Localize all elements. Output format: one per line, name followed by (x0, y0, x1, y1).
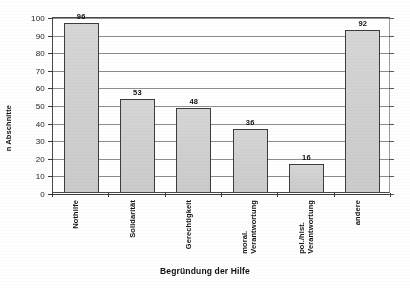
bar-value-label: 16 (289, 153, 324, 162)
bar-column: 36 (233, 16, 268, 192)
bar-value-label: 92 (345, 19, 380, 28)
y-tick-label: 40 (36, 119, 45, 128)
bar (64, 23, 99, 192)
bar (176, 108, 211, 192)
x-tick-mark (334, 193, 335, 197)
y-tick-label: 0 (40, 190, 45, 199)
x-category-label: Solidarität (129, 200, 145, 238)
y-tick-mark-right (389, 18, 394, 19)
bar-value-label: 48 (176, 97, 211, 106)
y-tick-label: 30 (36, 137, 45, 146)
y-tick-mark-right (389, 159, 394, 160)
bar-chart-figure: n Abschnitte 0102030405060708090100 9653… (0, 0, 410, 288)
y-tick-mark-right (389, 124, 394, 125)
x-tick-mark (221, 193, 222, 197)
y-tick-label: 70 (36, 66, 45, 75)
x-category-label: Nothilfe (72, 200, 88, 229)
x-category-label: moral. Verantwortung (241, 200, 257, 254)
x-category-label: andere (354, 200, 370, 225)
bar-column: 92 (345, 16, 380, 192)
y-tick-mark-right (389, 53, 394, 54)
y-axis-title: n Abschnitte (4, 105, 13, 151)
x-tick-mark (277, 193, 278, 197)
x-tick-mark (52, 193, 53, 197)
x-tick-mark (390, 193, 391, 197)
y-tick-label: 50 (36, 102, 45, 111)
y-tick-label: 90 (36, 31, 45, 40)
y-tick-label: 20 (36, 154, 45, 163)
bar (120, 99, 155, 192)
bar-column: 16 (289, 16, 324, 192)
bar-column: 48 (176, 16, 211, 192)
bar-value-label: 36 (233, 118, 268, 127)
plot-area: 0102030405060708090100 965348361692 (52, 17, 390, 193)
y-tick-mark-right (389, 141, 394, 142)
bar-series: 965348361692 (53, 18, 389, 192)
x-tick-mark (108, 193, 109, 197)
y-tick-label: 10 (36, 172, 45, 181)
bar (345, 30, 380, 192)
bar-value-label: 53 (120, 88, 155, 97)
y-tick-label: 60 (36, 84, 45, 93)
bar-column: 53 (120, 16, 155, 192)
y-tick-mark-right (389, 36, 394, 37)
y-tick-mark-right (389, 106, 394, 107)
x-category-label: pol./hist. Verantwortung (298, 200, 314, 254)
bar (289, 164, 324, 192)
bar (233, 129, 268, 192)
y-tick-mark-right (389, 71, 394, 72)
bar-column: 96 (64, 16, 99, 192)
y-tick-mark-right (389, 88, 394, 89)
x-axis-title: Begründung der Hilfe (0, 266, 410, 276)
x-tick-mark (165, 193, 166, 197)
y-tick-mark-right (389, 176, 394, 177)
bar-value-label: 96 (64, 12, 99, 21)
x-category-label: Gerechtigkeit (185, 200, 201, 249)
y-tick-label: 80 (36, 49, 45, 58)
y-tick-label: 100 (31, 14, 45, 23)
